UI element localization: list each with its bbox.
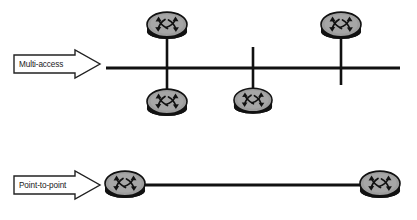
multi-access-label: Multi-access xyxy=(19,60,63,69)
multi-access-arrow-callout: Multi-access xyxy=(14,50,100,78)
router-bottom-left-icon xyxy=(147,89,187,116)
point-to-point-label: Point-to-point xyxy=(19,181,67,190)
point-to-point-row: Point-to-point xyxy=(14,171,400,199)
router-top-right-icon xyxy=(321,12,361,39)
router-bottom-middle-icon xyxy=(234,88,272,114)
network-topology-diagram: Multi-access Point-to-point xyxy=(0,0,417,220)
router-top-left-icon xyxy=(147,12,187,39)
multi-access-row: Multi-access xyxy=(14,12,400,116)
router-p2p-right-icon xyxy=(360,171,400,198)
diagram-canvas: Multi-access Point-to-point xyxy=(0,0,417,220)
point-to-point-arrow-callout: Point-to-point xyxy=(14,171,100,199)
router-p2p-left-icon xyxy=(105,171,145,198)
